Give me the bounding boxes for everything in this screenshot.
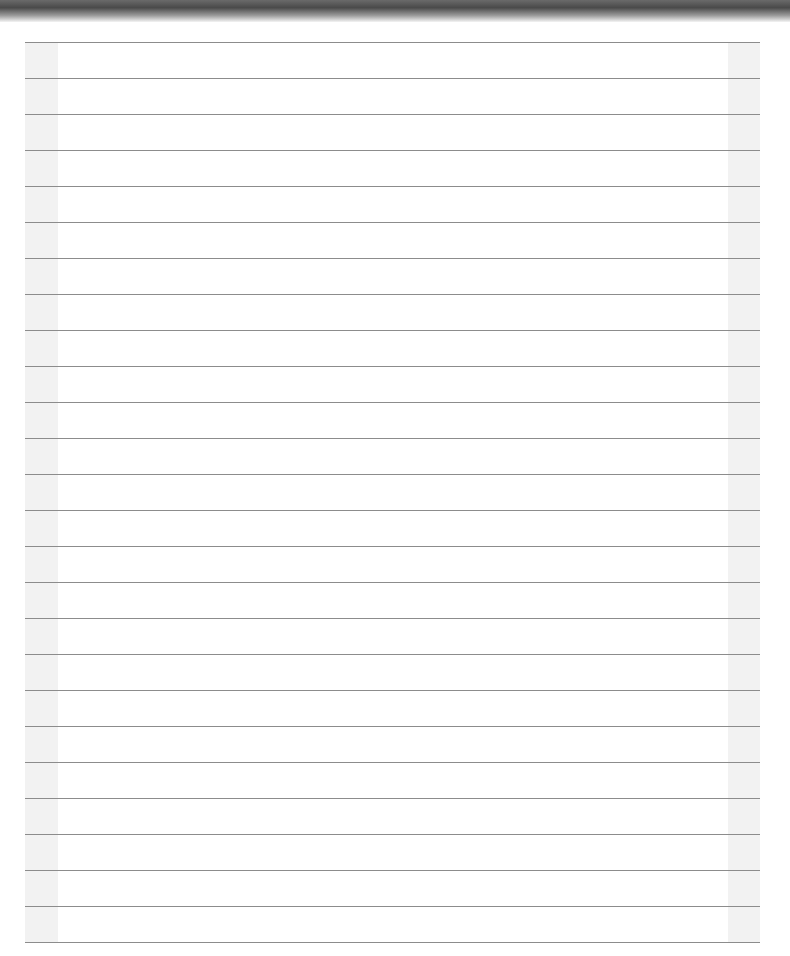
ruled-line — [25, 402, 760, 403]
ruled-line — [25, 222, 760, 223]
ruled-line — [25, 798, 760, 799]
ruled-line — [25, 438, 760, 439]
ruled-line — [25, 474, 760, 475]
ruled-line — [25, 114, 760, 115]
ruled-line — [25, 546, 760, 547]
top-shadow-bar — [0, 0, 790, 22]
ruled-line — [25, 654, 760, 655]
ruled-line — [25, 258, 760, 259]
ruled-line — [25, 78, 760, 79]
ruled-line — [25, 726, 760, 727]
ruled-line — [25, 294, 760, 295]
ruled-line — [25, 618, 760, 619]
ruled-line — [25, 690, 760, 691]
ruled-line — [25, 42, 760, 43]
ruled-line — [25, 834, 760, 835]
ruled-line — [25, 870, 760, 871]
ruled-line — [25, 582, 760, 583]
ruled-line — [25, 510, 760, 511]
ruled-line — [25, 942, 760, 943]
ruled-line — [25, 366, 760, 367]
ruled-line — [25, 186, 760, 187]
left-margin-band — [25, 42, 58, 942]
lined-paper-sheet — [0, 22, 790, 956]
ruled-line — [25, 150, 760, 151]
right-margin-band — [728, 42, 760, 942]
ruled-line — [25, 906, 760, 907]
ruled-line — [25, 762, 760, 763]
ruled-line — [25, 330, 760, 331]
